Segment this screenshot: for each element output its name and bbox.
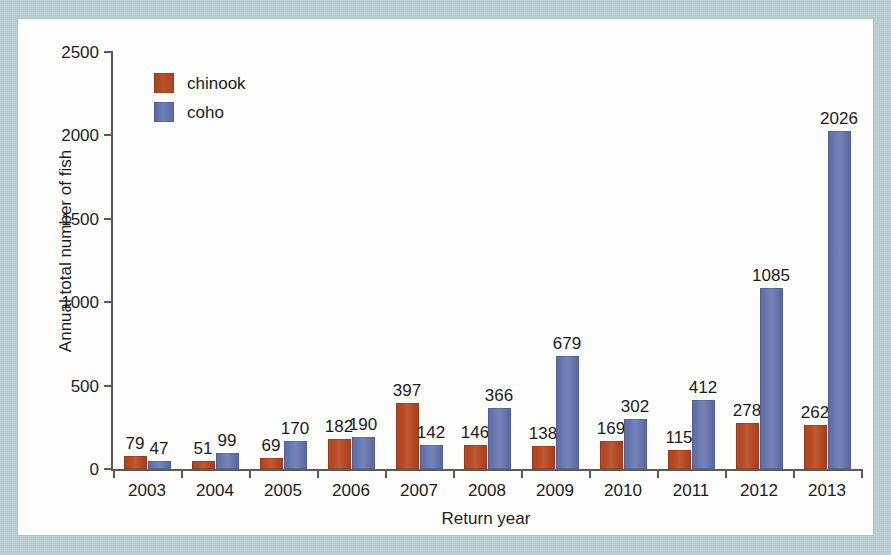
bar-value-coho-2011: 412 <box>673 379 733 396</box>
bar-chinook-2004[interactable] <box>192 461 215 470</box>
x-tick-mark <box>793 469 795 478</box>
bar-group-2013: 2622026 <box>804 52 851 469</box>
bar-chinook-2012[interactable] <box>736 423 759 469</box>
x-axis-line <box>111 469 861 471</box>
bar-coho-2009[interactable] <box>556 356 579 469</box>
x-tick-label-2010: 2010 <box>589 481 657 501</box>
legend-label-coho: coho <box>187 104 224 121</box>
x-tick-mark <box>657 469 659 478</box>
x-tick-mark <box>249 469 251 478</box>
x-axis-title: Return year <box>111 509 861 529</box>
bar-value-coho-2006: 190 <box>333 416 393 433</box>
x-tick-mark <box>521 469 523 478</box>
x-tick-label-2011: 2011 <box>657 481 725 501</box>
bar-coho-2003[interactable] <box>148 461 171 469</box>
x-tick-label-2005: 2005 <box>249 481 317 501</box>
y-tick-mark <box>104 385 113 387</box>
bar-coho-2004[interactable] <box>216 453 239 470</box>
bar-coho-2005[interactable] <box>284 441 307 469</box>
legend-label-chinook: chinook <box>187 75 246 92</box>
bar-coho-2010[interactable] <box>624 419 647 469</box>
bar-chinook-2013[interactable] <box>804 425 827 469</box>
x-tick-label-2004: 2004 <box>181 481 249 501</box>
y-tick-mark <box>104 51 113 53</box>
bar-group-2009: 138679 <box>532 52 579 469</box>
bar-coho-2007[interactable] <box>420 445 443 469</box>
legend: chinook coho <box>154 73 246 131</box>
bar-group-2005: 69170 <box>260 52 307 469</box>
y-tick-mark <box>104 468 113 470</box>
bar-chinook-2006[interactable] <box>328 439 351 469</box>
y-axis-line <box>111 52 113 471</box>
bar-group-2006: 182190 <box>328 52 375 469</box>
y-tick-mark <box>104 301 113 303</box>
x-tick-mark <box>385 469 387 478</box>
bar-coho-2012[interactable] <box>760 288 783 469</box>
x-tick-label-2008: 2008 <box>453 481 521 501</box>
bar-value-coho-2012: 1085 <box>741 267 801 284</box>
bar-value-coho-2008: 366 <box>469 387 529 404</box>
bar-value-coho-2010: 302 <box>605 398 665 415</box>
legend-item-chinook[interactable]: chinook <box>154 73 246 93</box>
x-tick-mark <box>113 469 115 478</box>
bar-coho-2011[interactable] <box>692 400 715 469</box>
bar-value-coho-2013: 2026 <box>809 110 869 127</box>
bar-group-2010: 169302 <box>600 52 647 469</box>
bar-group-2008: 146366 <box>464 52 511 469</box>
x-tick-label-2003: 2003 <box>113 481 181 501</box>
legend-swatch-coho-icon <box>154 102 174 122</box>
y-tick-mark <box>104 218 113 220</box>
x-tick-label-2009: 2009 <box>521 481 589 501</box>
x-tick-mark <box>725 469 727 478</box>
y-tick-label: 0 <box>90 460 99 480</box>
x-tick-label-2007: 2007 <box>385 481 453 501</box>
y-axis-title: Annual total number of fish <box>56 51 76 451</box>
bar-chinook-2010[interactable] <box>600 441 623 469</box>
legend-item-coho[interactable]: coho <box>154 102 246 122</box>
x-tick-mark <box>181 469 183 478</box>
bar-coho-2013[interactable] <box>828 131 851 469</box>
x-tick-label-2013: 2013 <box>793 481 861 501</box>
bar-value-chinook-2007: 397 <box>377 382 437 399</box>
bar-chinook-2005[interactable] <box>260 458 283 470</box>
bar-group-2007: 397142 <box>396 52 443 469</box>
x-tick-mark <box>589 469 591 478</box>
x-tick-mark <box>453 469 455 478</box>
x-tick-label-2012: 2012 <box>725 481 793 501</box>
bar-group-2011: 115412 <box>668 52 715 469</box>
x-tick-mark <box>861 469 863 478</box>
legend-swatch-chinook-icon <box>154 73 174 93</box>
bar-chinook-2009[interactable] <box>532 446 555 469</box>
bar-chinook-2011[interactable] <box>668 450 691 469</box>
x-tick-label-2006: 2006 <box>317 481 385 501</box>
bar-coho-2008[interactable] <box>488 408 511 469</box>
bar-group-2012: 2781085 <box>736 52 783 469</box>
bar-chinook-2008[interactable] <box>464 445 487 469</box>
bar-value-coho-2009: 679 <box>537 335 597 352</box>
bar-chinook-2003[interactable] <box>124 456 147 469</box>
bar-coho-2006[interactable] <box>352 437 375 469</box>
figure-panel: 05001000150020002500 Annual total number… <box>18 19 873 535</box>
x-tick-mark <box>317 469 319 478</box>
plot-area: 05001000150020002500 Annual total number… <box>18 19 873 535</box>
y-tick-mark <box>104 134 113 136</box>
